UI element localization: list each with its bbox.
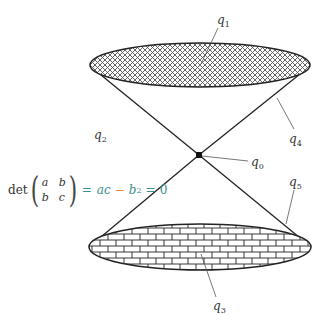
exponent: 2 xyxy=(136,186,141,195)
bottom-ellipse-bricks xyxy=(89,224,311,270)
label-q1: q1 xyxy=(217,13,230,29)
label-q2: q2 xyxy=(94,128,107,144)
leader-q0 xyxy=(202,156,248,161)
equals-2: = xyxy=(146,183,156,197)
term-ac: ac xyxy=(97,183,111,197)
label-q0: q0 xyxy=(251,155,264,171)
label-q3: q3 xyxy=(213,299,226,315)
leader-q4 xyxy=(277,98,294,129)
top-ellipse-crosshatch xyxy=(90,43,310,87)
matrix-c: c xyxy=(59,191,66,204)
label-q5: q5 xyxy=(289,175,302,191)
label-q4: q4 xyxy=(289,132,302,148)
equals-1: = xyxy=(82,183,92,197)
det-function: det xyxy=(8,183,28,197)
apex-point xyxy=(196,152,202,158)
determinant-equation: det ( a b b c ) = ac − b2 = 0 xyxy=(8,172,167,208)
left-paren: ( xyxy=(30,172,38,208)
matrix: a b b c xyxy=(42,176,66,204)
term-b: b xyxy=(129,183,137,197)
minus-sign: − xyxy=(115,183,125,197)
matrix-a: a xyxy=(42,176,49,189)
rhs-zero: 0 xyxy=(160,183,168,197)
matrix-b-top: b xyxy=(59,176,66,189)
double-cone-diagram: q1 q2 q4 q0 q5 q3 xyxy=(0,0,323,324)
leader-q5 xyxy=(286,190,294,224)
right-paren: ) xyxy=(69,172,77,208)
matrix-b-bottom: b xyxy=(42,191,49,204)
